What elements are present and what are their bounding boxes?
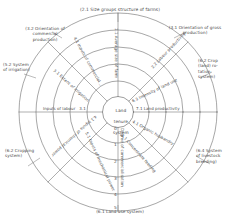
center-line-1: Land (115, 108, 126, 113)
outer-label-bottom: (6.1 Land use system) (68, 209, 172, 214)
tick-1: 1 (114, 142, 117, 147)
tick-5: 5 (114, 205, 117, 210)
tick-3: 3 (114, 176, 117, 181)
center-label: Land tenure system (100, 102, 136, 141)
outer-label-right-upper: (6.2 Crop (land) ro- tation system) (198, 58, 236, 79)
axis-label-average-size-of-farm: 1.1 Average size of farm (114, 28, 119, 78)
tick-0: 0 (114, 126, 117, 131)
axis-label-inputs-of-labour: Inputs of labour 3.1 (43, 106, 86, 111)
tick-4: 4 (114, 192, 117, 197)
center-line-2: tenure (114, 119, 128, 124)
outer-label-top-right: (3.1 Orientation of gross production) (160, 25, 230, 36)
spoke-ne (129, 42, 188, 101)
outer-label-right-lower: (6.4 System of livestock breeding) (196, 148, 237, 164)
chart-title: (2.1 Size groups structure of farms) (60, 7, 180, 13)
diagram-canvas: (2.1 Size groups structure of farms) (3.… (0, 0, 237, 224)
tick-2: 2 (114, 159, 117, 164)
outer-label-top-left: (3.2 Orientation of commercial productio… (16, 26, 74, 42)
outer-label-left-lower: (6.2 Cropping system) (5, 148, 49, 159)
axis-label-land-productivity: 7.1 Land productivity (136, 106, 180, 111)
outer-label-left-upper: (5.2 System of irrigation) (3, 62, 45, 73)
